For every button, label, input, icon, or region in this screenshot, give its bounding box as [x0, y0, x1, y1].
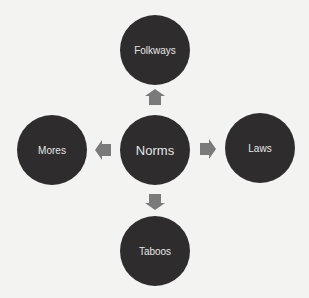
node-norms: Norms [120, 115, 190, 185]
node-label: Laws [248, 143, 271, 154]
node-label: Folkways [134, 45, 176, 56]
node-label: Norms [136, 143, 174, 158]
arrow-left-icon [95, 140, 111, 160]
node-label: Mores [38, 145, 66, 156]
node-folkways: Folkways [120, 15, 190, 85]
node-mores: Mores [17, 115, 87, 185]
arrow-up-icon [145, 89, 165, 105]
node-taboos: Taboos [120, 216, 190, 286]
arrow-down-icon [145, 194, 165, 210]
arrow-right-icon [200, 139, 216, 159]
node-label: Taboos [139, 246, 171, 257]
node-laws: Laws [225, 113, 295, 183]
